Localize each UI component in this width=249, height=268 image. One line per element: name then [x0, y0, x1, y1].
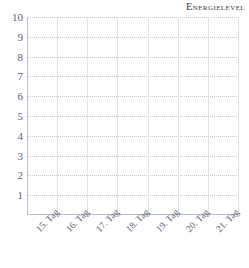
y-axis-tick-label: 10 [0, 12, 23, 22]
y-axis-tick-label: 7 [0, 71, 23, 81]
y-axis-tick-label: 5 [0, 111, 23, 121]
y-axis-tick-labels: 12345678910 [0, 17, 23, 215]
plot-area [27, 17, 238, 215]
y-axis-tick-label: 6 [0, 91, 23, 101]
gridline-vertical [208, 17, 209, 215]
y-axis-tick-label: 3 [0, 151, 23, 161]
y-axis-tick-label: 4 [0, 131, 23, 141]
y-axis-tick-label: 1 [0, 190, 23, 200]
gridline-vertical [148, 17, 149, 215]
y-axis-tick-label: 8 [0, 52, 23, 62]
y-axis-line [27, 17, 28, 215]
y-axis-tick-label: 2 [0, 170, 23, 180]
vertical-gridlines [27, 17, 238, 215]
gridline-vertical [57, 17, 58, 215]
gridline-vertical [178, 17, 179, 215]
x-axis-tick-labels: 15. Tag16. Tag17. Tag18. Tag19. Tag20. T… [27, 215, 249, 268]
energy-level-chart: Energielevel 12345678910 15. Tag16. Tag1… [0, 0, 249, 268]
gridline-vertical [87, 17, 88, 215]
gridline-vertical [238, 17, 239, 215]
y-axis-tick-label: 9 [0, 32, 23, 42]
gridline-vertical [117, 17, 118, 215]
chart-title: Energielevel [186, 1, 245, 13]
